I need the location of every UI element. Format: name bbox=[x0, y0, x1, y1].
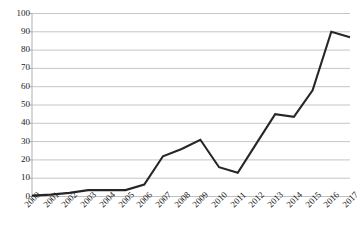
x-tick-label: 2007 bbox=[154, 190, 173, 209]
x-tick-label: 2008 bbox=[173, 190, 192, 209]
x-tick-label: 2001 bbox=[42, 190, 61, 209]
x-tick-label: 2009 bbox=[191, 190, 210, 209]
x-tick-label: 2002 bbox=[60, 190, 79, 209]
x-tick-label: 2014 bbox=[285, 190, 304, 209]
x-tick-label: 2003 bbox=[79, 190, 98, 209]
x-tick-label: 2013 bbox=[266, 190, 285, 209]
x-tick-label: 2005 bbox=[117, 190, 136, 209]
x-tick-label: 2015 bbox=[304, 190, 323, 209]
x-tick-label: 2000 bbox=[23, 190, 42, 209]
x-tick-label: 2006 bbox=[135, 190, 154, 209]
x-tick-label: 2012 bbox=[247, 190, 266, 209]
x-tick-label: 2010 bbox=[210, 190, 229, 209]
x-tick-label: 2004 bbox=[98, 190, 117, 209]
x-tick-label: 2011 bbox=[229, 190, 248, 209]
x-tick-label: 2016 bbox=[322, 190, 341, 209]
x-tick-label: 2017 bbox=[341, 190, 360, 209]
